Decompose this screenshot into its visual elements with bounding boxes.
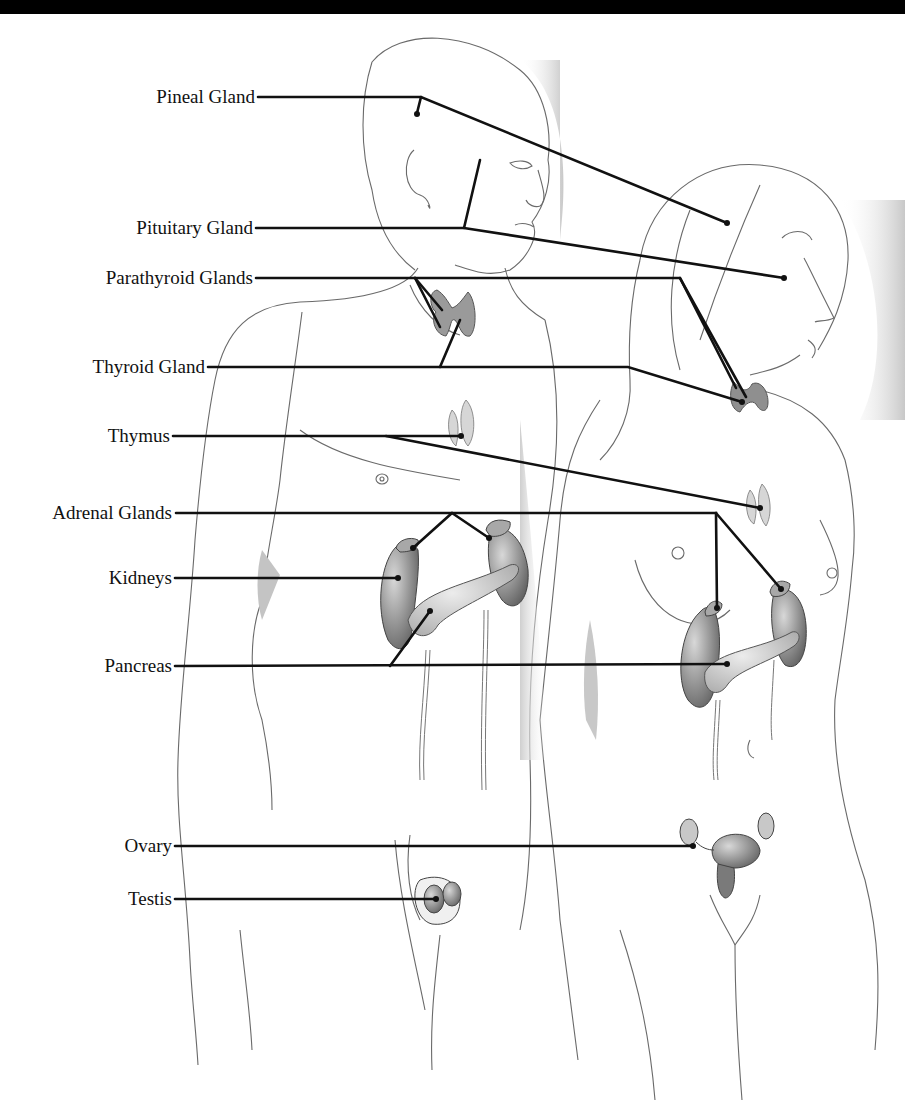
leader-thymus <box>173 436 760 508</box>
label-testis: Testis <box>128 889 172 909</box>
leader-pituitary <box>256 228 784 278</box>
leader-pancreas <box>175 664 727 666</box>
label-ovary: Ovary <box>125 836 172 856</box>
label-adrenal-glands: Adrenal Glands <box>52 503 172 523</box>
leader-lines <box>173 97 784 899</box>
label-pituitary-gland: Pituitary Gland <box>136 218 253 238</box>
leader-thyroid <box>208 367 742 402</box>
label-pancreas: Pancreas <box>104 656 172 676</box>
female-ovary-uterus-organ <box>680 813 774 898</box>
label-kidneys: Kidneys <box>109 568 172 588</box>
label-thymus: Thymus <box>108 426 170 446</box>
label-pineal-gland: Pineal Gland <box>156 87 255 107</box>
male-thyroid-organ <box>431 290 475 336</box>
leader-parathyroid <box>256 278 746 397</box>
male-thymus-organ <box>449 400 474 446</box>
leader-pineal <box>258 97 727 223</box>
leader-dots <box>395 111 787 902</box>
endocrine-illustration <box>0 0 905 1117</box>
label-thyroid-gland: Thyroid Gland <box>93 357 205 377</box>
label-parathyroid-glands: Parathyroid Glands <box>106 268 253 288</box>
